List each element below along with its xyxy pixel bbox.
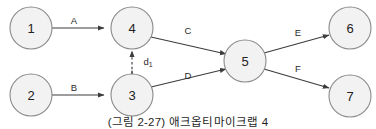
edge-c-label: C (185, 25, 192, 36)
node-3-label: 3 (128, 88, 135, 103)
node-1-label: 1 (27, 21, 34, 36)
node-4-label: 4 (128, 21, 135, 36)
node-5[interactable]: 5 (224, 40, 266, 82)
edge-f-label: F (295, 63, 301, 74)
edge-d1-label-group: d1 (143, 56, 152, 68)
edge-d-label: D (185, 70, 192, 81)
edge-b-label: B (71, 82, 77, 93)
edge-c-line (151, 37, 226, 54)
node-2-label: 2 (27, 88, 34, 103)
figure-container: A B C D E F d1 1 2 3 4 5 6 (0, 0, 376, 129)
edge-a-label: A (71, 15, 78, 26)
node-7-label: 7 (346, 89, 353, 104)
node-6[interactable]: 6 (329, 7, 371, 49)
node-1[interactable]: 1 (10, 7, 52, 49)
node-5-label: 5 (241, 54, 248, 69)
node-2[interactable]: 2 (10, 74, 52, 116)
edge-e-line (264, 35, 329, 53)
edge-d1-label-subscript: 1 (149, 60, 153, 67)
node-7[interactable]: 7 (329, 75, 371, 117)
node-3[interactable]: 3 (111, 74, 153, 116)
directed-graph-diagram: A B C D E F d1 1 2 3 4 5 6 (0, 0, 376, 129)
edge-e-label: E (295, 27, 301, 38)
figure-caption: (그림 2-27) 애크옵티마이크랩 4 (0, 113, 376, 129)
node-4[interactable]: 4 (111, 7, 153, 49)
node-6-label: 6 (346, 21, 353, 36)
